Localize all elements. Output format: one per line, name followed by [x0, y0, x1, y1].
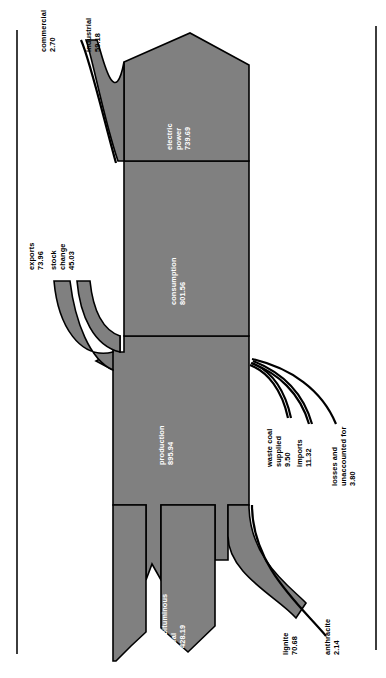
label-lignite: lignite 70.68	[281, 633, 299, 655]
label-industrial-value: 59.18	[93, 33, 102, 52]
label-consumption-name: consumption	[169, 257, 178, 305]
label-electric-power-name-2: power	[174, 128, 183, 150]
label-lignite-name: lignite	[281, 633, 290, 655]
label-commercial-value: 2.70	[48, 37, 57, 52]
label-imports-name: imports	[295, 439, 304, 467]
label-anthracite-value: 2.14	[332, 639, 341, 655]
label-exports-value: 73.96	[36, 251, 45, 270]
label-bituminous-coal: bituminous coal 394.92	[71, 607, 98, 648]
label-lignite-value: 70.68	[290, 636, 299, 655]
label-exports-name: exports	[27, 243, 36, 270]
label-industrial-name: industrial	[84, 18, 93, 52]
label-electric-power-value: 739.69	[183, 127, 192, 150]
label-imports: imports 11.32	[295, 439, 313, 467]
label-losses-unaccounted: losses and unaccounted for 3.80	[330, 427, 357, 486]
label-production-name: production	[157, 425, 166, 465]
label-production-value: 895.94	[166, 441, 175, 465]
label-stock-change-name-2: change	[58, 244, 67, 270]
label-electric-power-name-1: electric	[165, 123, 174, 150]
label-bituminous-coal-name-2: coal	[80, 633, 89, 648]
label-stock-change-name-1: stock	[49, 249, 58, 270]
label-waste-coal-supplied: waste coal supplied 9.50	[265, 429, 292, 468]
label-losses-unaccounted-name-2: unaccounted for	[339, 427, 348, 486]
label-anthracite-name: anthracite	[323, 619, 332, 655]
label-bituminous-coal-name-1: bituminous	[71, 607, 80, 648]
label-losses-unaccounted-name-1: losses and	[330, 446, 339, 486]
label-waste-coal-supplied-name-1: waste coal	[265, 429, 274, 468]
label-anthracite: anthracite 2.14	[323, 619, 341, 655]
label-losses-unaccounted-value: 3.80	[348, 471, 357, 486]
label-bituminous-coal-value: 394.92	[89, 625, 98, 648]
subbituminous-coal-inlet	[161, 505, 215, 652]
label-exports: exports 73.96	[27, 243, 45, 270]
sankey-figure: commercial 2.70 industrial 59.18 electri…	[0, 0, 386, 678]
label-commercial-name: commercial	[39, 10, 48, 52]
label-waste-coal-supplied-name-2: supplied	[274, 435, 283, 467]
label-subbituminous-coal-name-1: subbituminous	[160, 594, 169, 648]
sankey-svg: commercial 2.70 industrial 59.18 electri…	[0, 0, 386, 678]
label-waste-coal-supplied-value: 9.50	[283, 452, 292, 467]
bituminous-coal-inlet	[113, 505, 146, 661]
label-stock-change-value: 45.03	[67, 251, 76, 270]
label-imports-value: 11.32	[304, 448, 313, 467]
label-commercial: commercial 2.70	[39, 10, 57, 52]
label-consumption-value: 801.56	[178, 282, 187, 305]
consumption-block	[124, 161, 249, 336]
label-industrial: industrial 59.18	[84, 18, 102, 52]
label-subbituminous-coal-name-2: coal	[169, 633, 178, 648]
label-subbituminous-coal-value: 428.19	[178, 625, 187, 648]
label-stock-change: stock change 45.03	[49, 244, 76, 270]
